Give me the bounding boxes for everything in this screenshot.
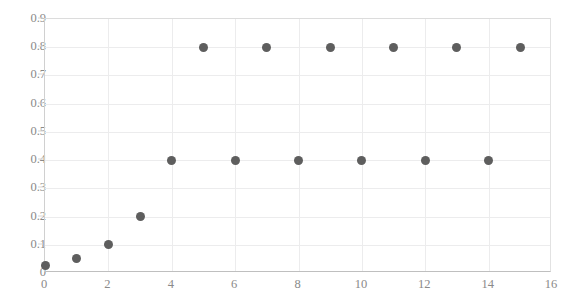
data-point bbox=[262, 43, 271, 52]
data-point bbox=[104, 240, 113, 249]
gridline-vertical bbox=[489, 19, 490, 271]
x-axis-tick-label: 10 bbox=[341, 278, 381, 291]
x-axis-tick-label: 2 bbox=[87, 278, 127, 291]
y-axis-tick-mark bbox=[38, 102, 43, 103]
y-axis-tick-label: 0 bbox=[6, 266, 46, 279]
data-point bbox=[294, 156, 303, 165]
gridline-vertical bbox=[172, 19, 173, 271]
x-axis-tick-label: 14 bbox=[468, 278, 508, 291]
y-axis-tick-mark bbox=[38, 46, 43, 47]
data-point bbox=[484, 156, 493, 165]
gridline-horizontal bbox=[45, 104, 550, 105]
x-axis-tick-label: 0 bbox=[24, 278, 64, 291]
x-axis-tick-label: 8 bbox=[278, 278, 318, 291]
x-axis-tick-label: 6 bbox=[214, 278, 254, 291]
y-axis-tick-mark bbox=[38, 215, 43, 216]
data-point bbox=[72, 254, 81, 263]
data-point bbox=[421, 156, 430, 165]
y-axis-tick-mark bbox=[38, 243, 43, 244]
gridline-vertical bbox=[108, 19, 109, 271]
gridline-vertical bbox=[425, 19, 426, 271]
y-axis-tick-mark bbox=[38, 18, 43, 19]
gridline-horizontal bbox=[45, 188, 550, 189]
plot-area bbox=[44, 18, 551, 272]
data-point bbox=[389, 43, 398, 52]
data-point bbox=[516, 43, 525, 52]
gridline-vertical bbox=[362, 19, 363, 271]
data-point bbox=[167, 156, 176, 165]
gridline-horizontal bbox=[45, 132, 550, 133]
gridline-horizontal bbox=[45, 245, 550, 246]
gridline-horizontal bbox=[45, 47, 550, 48]
x-axis-tick-label: 16 bbox=[531, 278, 571, 291]
data-point bbox=[136, 212, 145, 221]
x-axis-tick-label: 12 bbox=[404, 278, 444, 291]
data-point bbox=[41, 261, 50, 270]
y-axis-tick-mark bbox=[38, 74, 43, 75]
y-axis-tick-mark bbox=[38, 130, 43, 131]
gridline-horizontal bbox=[45, 75, 550, 76]
y-axis-tick-mark bbox=[38, 159, 43, 160]
scatter-chart: 00.10.20.30.40.50.60.70.80.9 02468101214… bbox=[0, 0, 577, 308]
data-point bbox=[326, 43, 335, 52]
y-axis-tick-mark bbox=[38, 187, 43, 188]
x-axis-tick-label: 4 bbox=[151, 278, 191, 291]
gridline-vertical bbox=[299, 19, 300, 271]
data-point bbox=[199, 43, 208, 52]
data-point bbox=[452, 43, 461, 52]
data-point bbox=[357, 156, 366, 165]
gridline-vertical bbox=[235, 19, 236, 271]
data-point bbox=[231, 156, 240, 165]
gridline-horizontal bbox=[45, 217, 550, 218]
